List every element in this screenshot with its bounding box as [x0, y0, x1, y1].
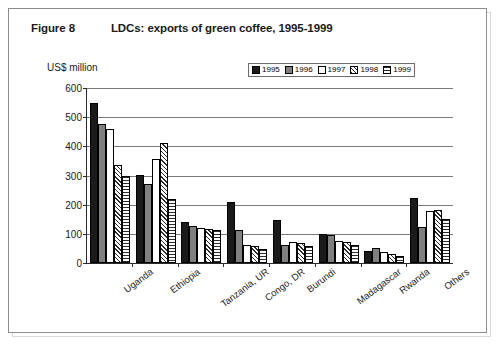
- legend-swatch-1999: [383, 66, 391, 74]
- bar-group-tanzania-ur: [179, 88, 225, 263]
- y-tick-label-0: 0: [76, 258, 82, 269]
- bar-rwanda-1996[interactable]: [372, 248, 380, 263]
- y-tick-label-200: 200: [65, 199, 82, 210]
- y-tick-label-500: 500: [65, 112, 82, 123]
- y-tick-label-600: 600: [65, 83, 82, 94]
- bar-tanzania-ur-1998[interactable]: [205, 229, 213, 263]
- legend-swatch-1995: [252, 66, 260, 74]
- bar-tanzania-ur-1995[interactable]: [181, 222, 189, 263]
- bar-madagascar-1997[interactable]: [335, 241, 343, 263]
- bar-uganda-1995[interactable]: [90, 103, 98, 263]
- figure-number: Figure 8: [31, 22, 75, 34]
- bar-group-burundi: [270, 88, 316, 263]
- legend-label-1999: 1999: [393, 66, 411, 74]
- y-axis-title: US$ million: [47, 62, 98, 73]
- y-tick-label-300: 300: [65, 170, 82, 181]
- bar-congo-dr-1998[interactable]: [251, 246, 259, 263]
- bar-others-1998[interactable]: [434, 210, 442, 263]
- bar-congo-dr-1999[interactable]: [259, 249, 267, 263]
- bar-madagascar-1999[interactable]: [351, 245, 359, 263]
- figure-title: LDCs: exports of green coffee, 1995-1999: [111, 22, 333, 34]
- legend-swatch-1997: [318, 66, 326, 74]
- legend-item-1998[interactable]: 1998: [350, 66, 378, 74]
- bar-uganda-1998[interactable]: [114, 165, 122, 263]
- bar-rwanda-1995[interactable]: [364, 251, 372, 263]
- legend-item-1999[interactable]: 1999: [383, 66, 411, 74]
- figure-container: Figure 8 LDCs: exports of green coffee, …: [0, 0, 501, 349]
- x-label-rwanda: Rwanda: [397, 266, 431, 296]
- bar-tanzania-ur-1996[interactable]: [189, 226, 197, 263]
- bar-madagascar-1996[interactable]: [327, 235, 335, 263]
- bar-congo-dr-1997[interactable]: [243, 245, 251, 263]
- bar-rwanda-1999[interactable]: [396, 256, 404, 263]
- plot-area: 0100200300400500600: [87, 88, 453, 263]
- x-axis-labels: UgandaEthiopiaTanzania, URCongo, DRBurun…: [87, 266, 453, 326]
- bar-ethiopia-1998[interactable]: [160, 143, 168, 263]
- legend-label-1995: 1995: [262, 66, 280, 74]
- y-tick-label-400: 400: [65, 141, 82, 152]
- bar-burundi-1996[interactable]: [281, 245, 289, 263]
- bar-uganda-1999[interactable]: [122, 176, 130, 264]
- legend-label-1997: 1997: [328, 66, 346, 74]
- x-label-burundi: Burundi: [305, 266, 338, 294]
- x-label-madagascar: Madagascar: [355, 266, 403, 306]
- bar-others-1996[interactable]: [418, 227, 426, 263]
- bar-group-ethiopia: [133, 88, 179, 263]
- bar-uganda-1997[interactable]: [106, 129, 114, 263]
- x-label-uganda: Uganda: [122, 266, 155, 295]
- bar-rwanda-1997[interactable]: [380, 252, 388, 263]
- bar-madagascar-1995[interactable]: [319, 234, 327, 263]
- bar-rwanda-1998[interactable]: [388, 254, 396, 263]
- bar-ethiopia-1996[interactable]: [144, 184, 152, 263]
- chart-legend: 19951996199719981999: [248, 63, 415, 77]
- bar-madagascar-1998[interactable]: [343, 242, 351, 263]
- bar-group-rwanda: [362, 88, 408, 263]
- bar-congo-dr-1995[interactable]: [227, 202, 235, 263]
- x-label-tanzania-ur: Tanzania, UR: [218, 266, 270, 309]
- legend-swatch-1998: [350, 66, 358, 74]
- bar-congo-dr-1996[interactable]: [235, 230, 243, 263]
- bar-groups: [87, 88, 453, 263]
- x-label-ethiopia: Ethiopia: [168, 266, 202, 295]
- legend-label-1996: 1996: [295, 66, 313, 74]
- y-tick-mark-0: [83, 263, 87, 264]
- bar-uganda-1996[interactable]: [98, 124, 106, 263]
- legend-item-1996[interactable]: 1996: [285, 66, 313, 74]
- bar-group-madagascar: [316, 88, 362, 263]
- bar-others-1995[interactable]: [410, 198, 418, 263]
- bar-others-1997[interactable]: [426, 211, 434, 263]
- bar-others-1999[interactable]: [442, 219, 450, 263]
- bar-burundi-1995[interactable]: [273, 220, 281, 263]
- legend-item-1997[interactable]: 1997: [318, 66, 346, 74]
- legend-item-1995[interactable]: 1995: [252, 66, 280, 74]
- legend-swatch-1996: [285, 66, 293, 74]
- legend-label-1998: 1998: [360, 66, 378, 74]
- y-tick-label-100: 100: [65, 228, 82, 239]
- bar-group-uganda: [87, 88, 133, 263]
- bar-tanzania-ur-1997[interactable]: [197, 228, 205, 263]
- bar-ethiopia-1995[interactable]: [136, 175, 144, 263]
- bar-group-congo-dr: [224, 88, 270, 263]
- bar-ethiopia-1997[interactable]: [152, 159, 160, 263]
- figure-title-row: Figure 8 LDCs: exports of green coffee, …: [31, 22, 333, 34]
- bar-tanzania-ur-1999[interactable]: [213, 230, 221, 263]
- bar-ethiopia-1999[interactable]: [168, 199, 176, 263]
- bar-burundi-1999[interactable]: [305, 246, 313, 264]
- bar-group-others: [407, 88, 453, 263]
- bar-burundi-1998[interactable]: [297, 243, 305, 263]
- bar-burundi-1997[interactable]: [289, 242, 297, 263]
